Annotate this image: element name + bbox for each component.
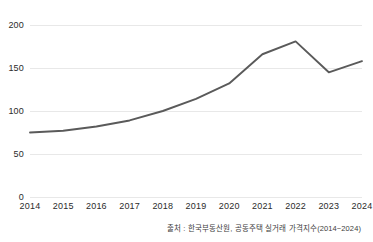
x-axis-tick-label: 2022 xyxy=(278,200,314,212)
y-axis-tick-label: 150 xyxy=(0,62,24,74)
gridline-0 xyxy=(30,197,362,198)
x-axis-tick-label: 2021 xyxy=(244,200,280,212)
x-axis-tick-label: 2016 xyxy=(78,200,114,212)
y-axis-tick-label: 200 xyxy=(0,19,24,31)
x-axis-tick-label: 2017 xyxy=(112,200,148,212)
x-axis-tick-label: 2020 xyxy=(211,200,247,212)
series-line-price-index xyxy=(30,41,362,132)
line-chart-figure: 050100150200 201420152016201720182019202… xyxy=(0,0,373,242)
x-axis-tick-label: 2015 xyxy=(45,200,81,212)
x-axis-tick-labels: 2014201520162017201820192020202120222023… xyxy=(30,200,362,214)
source-note: 출처 : 한국부동산원, 공동주택 실거래 가격지수(2014~2024) xyxy=(167,224,361,234)
x-axis-tick-label: 2018 xyxy=(145,200,181,212)
y-axis-tick-label: 50 xyxy=(0,148,24,160)
x-axis-tick-label: 2014 xyxy=(12,200,48,212)
x-axis-tick-label: 2019 xyxy=(178,200,214,212)
plot-area xyxy=(30,25,362,197)
x-axis-tick-label: 2023 xyxy=(311,200,347,212)
series-line-group xyxy=(30,25,362,197)
y-axis-tick-label: 100 xyxy=(0,105,24,117)
x-axis-tick-label: 2024 xyxy=(344,200,373,212)
